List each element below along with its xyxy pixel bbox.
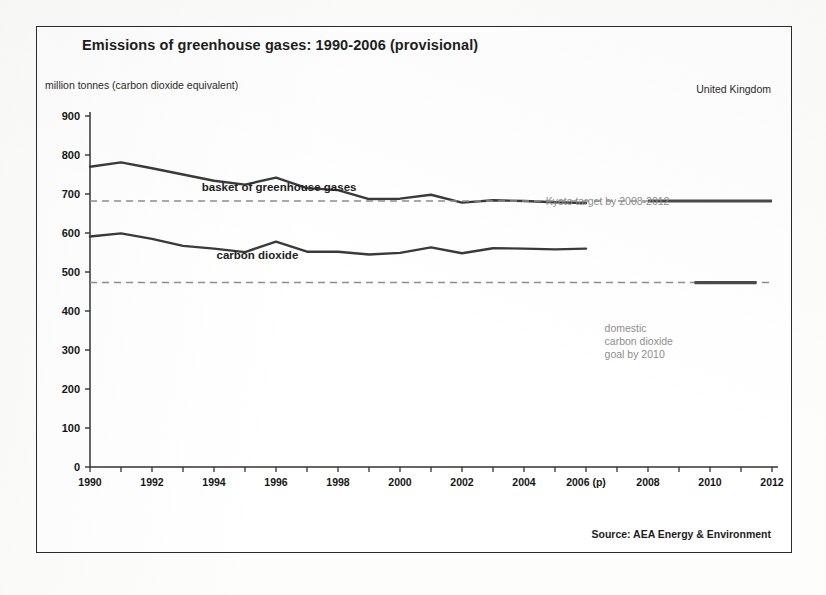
chart-svg	[37, 27, 793, 554]
y-axis-tick-label: 100	[46, 422, 80, 434]
series-line	[90, 233, 586, 254]
x-axis-tick-label: 2008	[636, 476, 659, 488]
y-axis-tick-label: 700	[46, 188, 80, 200]
y-axis-tick-label: 900	[46, 110, 80, 122]
x-axis-tick-label: 2002	[450, 476, 473, 488]
x-axis-tick-label: 2010	[698, 476, 721, 488]
series-label-basket: basket of greenhouse gases	[202, 181, 357, 193]
y-axis-tick-label: 200	[46, 383, 80, 395]
x-axis-tick-label: 1994	[202, 476, 225, 488]
x-axis-tick-label: 2000	[388, 476, 411, 488]
screenshot-page: Emissions of greenhouse gases: 1990-2006…	[0, 0, 826, 595]
x-axis-tick-label: 2012	[760, 476, 783, 488]
domestic-goal-annotation: domestic carbon dioxide goal by 2010	[605, 322, 673, 361]
y-axis-tick-label: 500	[46, 266, 80, 278]
plot-area: 0100200300400500600700800900199019921994…	[37, 27, 793, 554]
x-axis-tick-label: 1996	[264, 476, 287, 488]
y-axis-tick-label: 300	[46, 344, 80, 356]
kyoto-target-annotation: Kyoto target by 2008-2012	[546, 195, 670, 208]
series-label-co2: carbon dioxide	[216, 249, 298, 261]
y-axis-tick-label: 0	[46, 461, 80, 473]
source-note: Source: AEA Energy & Environment	[591, 528, 771, 540]
y-axis-tick-label: 600	[46, 227, 80, 239]
x-axis-tick-label: 1990	[78, 476, 101, 488]
x-axis-tick-label: 2004	[512, 476, 535, 488]
y-axis-tick-label: 400	[46, 305, 80, 317]
y-axis-tick-label: 800	[46, 149, 80, 161]
x-axis-tick-label: 2006 (p)	[566, 476, 606, 488]
chart-frame: Emissions of greenhouse gases: 1990-2006…	[36, 26, 792, 553]
x-axis-tick-label: 1992	[140, 476, 163, 488]
x-axis-tick-label: 1998	[326, 476, 349, 488]
